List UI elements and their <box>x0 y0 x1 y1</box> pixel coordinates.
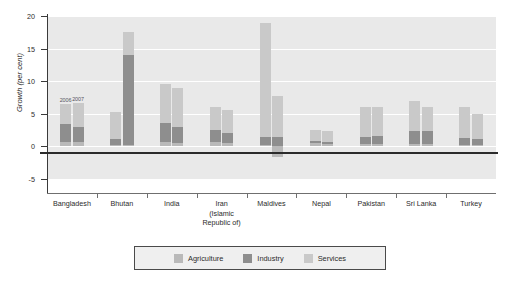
x-axis-category-labels: BangladeshBhutanIndiaIran(IslamicRepubli… <box>47 199 496 241</box>
bar-india-2007[interactable] <box>172 16 183 179</box>
bar-segment-agriculture <box>260 145 271 146</box>
bar-segment-industry <box>60 124 71 142</box>
bar-segment-agriculture <box>422 144 433 147</box>
bar-segment-services <box>422 107 433 130</box>
x-axis-tick <box>147 193 148 198</box>
bar-segment-industry <box>110 139 121 145</box>
x-axis-category-maldives: Maldives <box>247 199 297 209</box>
bar-segment-services <box>123 32 134 55</box>
x-axis-category-turkey: Turkey <box>446 199 496 209</box>
x-axis-tick <box>346 193 347 198</box>
x-axis-category-nepal: Nepal <box>296 199 346 209</box>
bar-segment-services <box>272 96 283 138</box>
bar-segment-services <box>472 114 483 139</box>
x-axis-category-line: Bhutan <box>97 199 147 209</box>
bar-segment-industry <box>222 133 233 143</box>
bar-segment-industry <box>360 137 371 145</box>
bar-maldives-2006[interactable] <box>260 16 271 179</box>
bar-segment-services <box>160 84 171 123</box>
bar-segment-agriculture <box>172 143 183 146</box>
bar-segment-services <box>73 103 84 126</box>
x-axis-tick <box>197 193 198 198</box>
bar-segment-industry <box>372 136 383 144</box>
bar-segment-industry <box>210 130 221 142</box>
bar-segment-industry <box>409 131 420 144</box>
x-axis-tick <box>396 193 397 198</box>
bar-segment-industry <box>160 123 171 143</box>
bar-nepal-2007[interactable] <box>322 16 333 179</box>
bar-segment-industry <box>172 127 183 143</box>
bar-segment-agriculture <box>60 142 71 147</box>
bar-iran-2007[interactable] <box>222 16 233 179</box>
bar-segment-agriculture <box>123 145 134 146</box>
bar-pakistan-2007[interactable] <box>372 16 383 179</box>
bar-segment-services <box>210 107 221 130</box>
bar-india-2006[interactable] <box>160 16 171 179</box>
bar-pakistan-2006[interactable] <box>360 16 371 179</box>
x-axis-category-bangladesh: Bangladesh <box>47 199 97 209</box>
bar-segment-industry <box>310 141 321 143</box>
x-axis-category-srilanka: Sri Lanka <box>396 199 446 209</box>
legend-swatch-services-icon <box>304 254 313 263</box>
bar-segment-agriculture <box>222 143 233 146</box>
bar-turkey-2007[interactable] <box>472 16 483 179</box>
y-axis-tick-label: 20 <box>27 12 35 21</box>
legend-item-agriculture[interactable]: Agriculture <box>174 254 223 263</box>
bar-bhutan-2007[interactable] <box>123 16 134 179</box>
series-year-annotation-2006: 2006 <box>60 97 72 103</box>
bar-maldives-2007[interactable] <box>272 16 283 179</box>
bar-segment-industry <box>73 127 84 143</box>
bar-segment-agriculture <box>409 144 420 147</box>
bar-segment-agriculture <box>360 144 371 146</box>
x-axis-category-line: Turkey <box>446 199 496 209</box>
series-year-annotation-2007: 2007 <box>72 96 84 102</box>
bar-bhutan-2006[interactable] <box>110 16 121 179</box>
bar-segment-agriculture <box>322 144 333 147</box>
bar-turkey-2006[interactable] <box>459 16 470 179</box>
bar-segment-services <box>322 131 333 141</box>
bar-segment-industry <box>272 137 283 146</box>
legend-label-services: Services <box>318 254 346 263</box>
bar-srilanka-2006[interactable] <box>409 16 420 179</box>
bar-segment-industry <box>260 137 271 145</box>
x-axis-category-line: Republic of) <box>197 218 247 228</box>
bar-srilanka-2007[interactable] <box>422 16 433 179</box>
bar-segment-services <box>222 110 233 133</box>
bar-nepal-2006[interactable] <box>310 16 321 179</box>
bar-segment-agriculture <box>110 145 121 146</box>
x-axis-category-iran: Iran(IslamicRepublic of) <box>197 199 247 228</box>
legend-item-industry[interactable]: Industry <box>243 254 283 263</box>
zero-axis-line <box>40 152 498 154</box>
bar-segment-agriculture <box>459 145 470 146</box>
bar-segment-services <box>60 104 71 124</box>
legend: Agriculture Industry Services <box>134 246 386 270</box>
legend-swatch-agriculture-icon <box>174 254 183 263</box>
x-axis-tick <box>296 193 297 198</box>
bar-segment-industry <box>472 139 483 146</box>
y-axis-tick-label: 0 <box>31 142 35 151</box>
bar-segment-services <box>459 107 470 138</box>
x-axis-category-bhutan: Bhutan <box>97 199 147 209</box>
bar-segment-services <box>110 112 121 139</box>
bar-segment-services <box>372 107 383 136</box>
y-axis-tick <box>41 179 47 180</box>
legend-item-services[interactable]: Services <box>304 254 346 263</box>
bar-segment-services <box>260 23 271 137</box>
bar-segment-industry <box>123 55 134 145</box>
bar-segment-industry <box>322 142 333 144</box>
x-axis-category-line: India <box>147 199 197 209</box>
bar-segment-services <box>409 101 420 131</box>
bar-segment-industry <box>422 131 433 144</box>
bar-segment-agriculture <box>73 142 84 146</box>
x-axis-category-line: Pakistan <box>346 199 396 209</box>
bar-iran-2006[interactable] <box>210 16 221 179</box>
bar-segment-agriculture <box>472 145 483 146</box>
x-axis-category-line: Sri Lanka <box>396 199 446 209</box>
x-axis-category-line: Nepal <box>296 199 346 209</box>
bar-segment-services <box>360 107 371 136</box>
x-axis-tick <box>97 193 98 198</box>
x-axis-category-line: Iran <box>197 199 247 209</box>
x-axis-tick <box>446 193 447 198</box>
x-axis-tick <box>247 193 248 198</box>
bar-segment-industry <box>459 138 470 145</box>
